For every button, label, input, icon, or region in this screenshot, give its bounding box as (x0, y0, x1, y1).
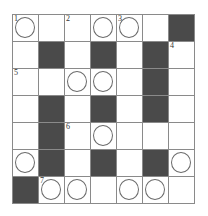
grid-cell[interactable]: 7 (39, 177, 65, 204)
circle-icon (15, 152, 35, 173)
black-cell (169, 15, 195, 42)
grid-cell[interactable] (65, 42, 91, 69)
grid-cell[interactable] (169, 177, 195, 204)
black-cell (91, 96, 117, 123)
black-cell (39, 150, 65, 177)
grid-cell[interactable] (143, 15, 169, 42)
grid-cell[interactable] (65, 177, 91, 204)
grid-cell[interactable] (13, 123, 39, 150)
grid-cell[interactable]: 2 (65, 15, 91, 42)
grid-cell[interactable] (13, 150, 39, 177)
grid-cell[interactable] (13, 42, 39, 69)
grid-cell[interactable] (169, 123, 195, 150)
circle-icon (67, 71, 87, 92)
grid-cell[interactable] (91, 69, 117, 96)
clue-number: 2 (66, 15, 70, 23)
circle-icon (93, 71, 113, 92)
circle-icon (93, 125, 113, 146)
black-cell (143, 42, 169, 69)
black-cell (143, 96, 169, 123)
black-cell (39, 96, 65, 123)
grid-cell[interactable] (169, 150, 195, 177)
black-cell (91, 150, 117, 177)
grid-cell[interactable]: 3 (117, 15, 143, 42)
grid-cell[interactable] (143, 177, 169, 204)
grid-cell[interactable] (13, 96, 39, 123)
grid-cell[interactable] (117, 42, 143, 69)
grid-cell[interactable] (169, 96, 195, 123)
circle-icon (145, 179, 165, 200)
clue-number: 5 (14, 69, 18, 77)
grid-cell[interactable] (169, 69, 195, 96)
grid-cell[interactable] (91, 177, 117, 204)
grid-cell[interactable] (39, 15, 65, 42)
circle-icon (119, 179, 139, 200)
clue-number: 6 (66, 123, 70, 131)
circle-icon (119, 17, 139, 38)
grid-cell[interactable] (117, 96, 143, 123)
circle-icon (41, 179, 61, 200)
grid-cell[interactable] (39, 69, 65, 96)
grid-cell[interactable]: 1 (13, 15, 39, 42)
grid-cell[interactable] (117, 123, 143, 150)
black-cell (91, 42, 117, 69)
circle-icon (171, 152, 191, 173)
black-cell (143, 69, 169, 96)
grid-cell[interactable] (91, 123, 117, 150)
circle-icon (93, 17, 113, 38)
grid-cell[interactable] (65, 150, 91, 177)
black-cell (39, 42, 65, 69)
grid-cell[interactable]: 4 (169, 42, 195, 69)
black-cell (39, 123, 65, 150)
grid-cell[interactable] (65, 96, 91, 123)
clue-number: 4 (170, 42, 174, 50)
grid-cell[interactable] (65, 69, 91, 96)
black-cell (13, 177, 39, 204)
grid-cell[interactable] (143, 123, 169, 150)
black-cell (143, 150, 169, 177)
grid-cell[interactable] (117, 177, 143, 204)
grid-cell[interactable] (117, 150, 143, 177)
grid-cell[interactable]: 5 (13, 69, 39, 96)
circle-icon (67, 179, 87, 200)
grid-cell[interactable] (117, 69, 143, 96)
grid-cell[interactable] (91, 15, 117, 42)
grid-cell[interactable]: 6 (65, 123, 91, 150)
crossword-grid: 1234567 (12, 14, 195, 204)
circle-icon (15, 17, 35, 38)
